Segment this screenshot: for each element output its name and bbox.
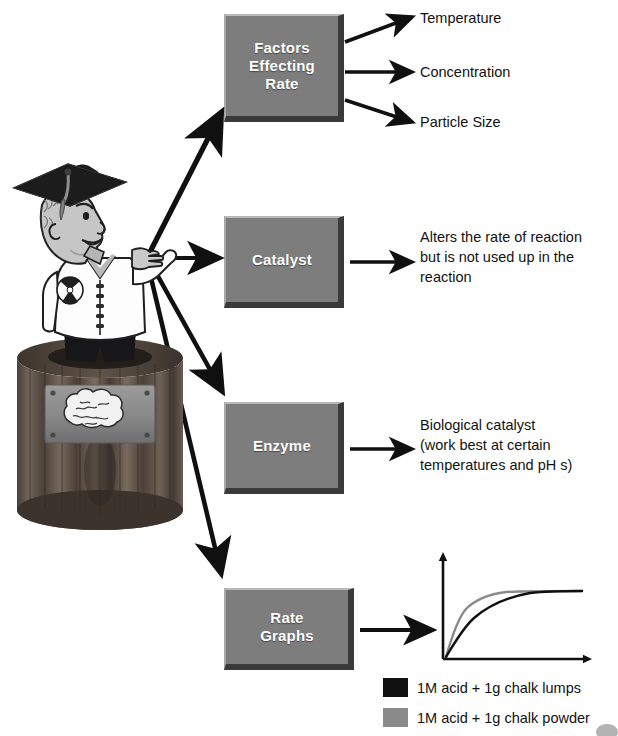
diagram-canvas: Factors Effecting Rate Catalyst Enzyme R…: [0, 0, 618, 736]
corner-mark: [0, 0, 618, 736]
